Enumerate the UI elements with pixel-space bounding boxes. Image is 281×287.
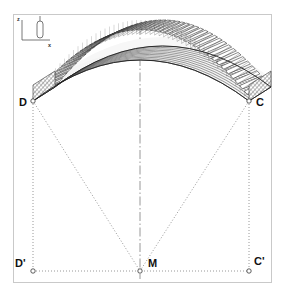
vault-end-face-left-shade (33, 71, 55, 101)
vault-mesh-line (96, 32, 118, 46)
point-marker-C (247, 99, 251, 103)
point-marker-M (138, 269, 142, 273)
axis-label-z: z (17, 16, 20, 22)
vault-rib (80, 39, 105, 51)
vault-rib (85, 36, 110, 48)
point-label-M: M (148, 257, 157, 269)
dotted-line-D-to-M (33, 101, 140, 271)
vault-mesh-line (105, 27, 127, 41)
point-label-D: D (19, 96, 27, 108)
point-marker-Cp (247, 269, 251, 273)
point-label-C: C (256, 96, 264, 108)
axis-capsule-icon (37, 21, 43, 38)
diagram-canvas: z x DCD'MC' (0, 0, 281, 287)
dotted-line-C-to-M (140, 101, 249, 271)
point-marker-D (31, 99, 35, 103)
vault-geometry-figure: z x DCD'MC' (0, 0, 281, 287)
axis-polyline (22, 20, 50, 40)
vault-mesh-line (92, 34, 114, 48)
vault-mesh-line (114, 24, 136, 38)
construction-line-group (33, 101, 249, 271)
point-label-Cp: C' (254, 255, 265, 267)
barrel-vault-mesh (33, 20, 271, 101)
axis-label-x: x (48, 42, 52, 48)
point-label-Dp: D' (15, 257, 26, 269)
coordinate-axis-indicator: z x (17, 16, 52, 48)
point-marker-Dp (31, 269, 35, 273)
